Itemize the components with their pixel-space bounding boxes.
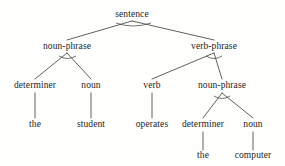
tree-node-vp: verb-phrase [191, 41, 237, 51]
tree-node-noun1: noun [81, 80, 100, 90]
tree-node-student: student [77, 119, 105, 129]
tree-node-operates: operates [136, 119, 168, 129]
tree-edge-np2-to-noun2 [222, 93, 253, 118]
tree-node-noun2: noun [243, 119, 262, 129]
branch-arc-np1 [59, 56, 76, 59]
tree-node-verb: verb [143, 80, 160, 90]
branch-arc-vp [206, 56, 222, 59]
tree-node-np1: noun-phrase [43, 41, 91, 51]
tree-node-the2: the [197, 150, 209, 160]
tree-edge-np2-to-det2 [203, 93, 222, 118]
tree-node-sentence: sentence [115, 9, 149, 19]
branch-arc-sentence [116, 23, 151, 26]
tree-node-np2: noun-phrase [198, 80, 246, 90]
tree-edge-sentence-to-np1 [67, 21, 132, 40]
branch-arc-np2 [214, 96, 230, 99]
parse-tree-diagram: sentencenoun-phraseverb-phrasedeterminer… [0, 0, 285, 166]
tree-node-computer: computer [235, 150, 272, 160]
tree-edge-sentence-to-vp [132, 21, 214, 40]
tree-node-det1: determiner [14, 80, 56, 90]
tree-edge-vp-to-verb [152, 53, 214, 79]
tree-edge-np1-to-noun1 [67, 53, 91, 79]
tree-node-the1: the [29, 119, 41, 129]
tree-node-det2: determiner [182, 119, 224, 129]
tree-edge-np1-to-det1 [35, 53, 67, 79]
